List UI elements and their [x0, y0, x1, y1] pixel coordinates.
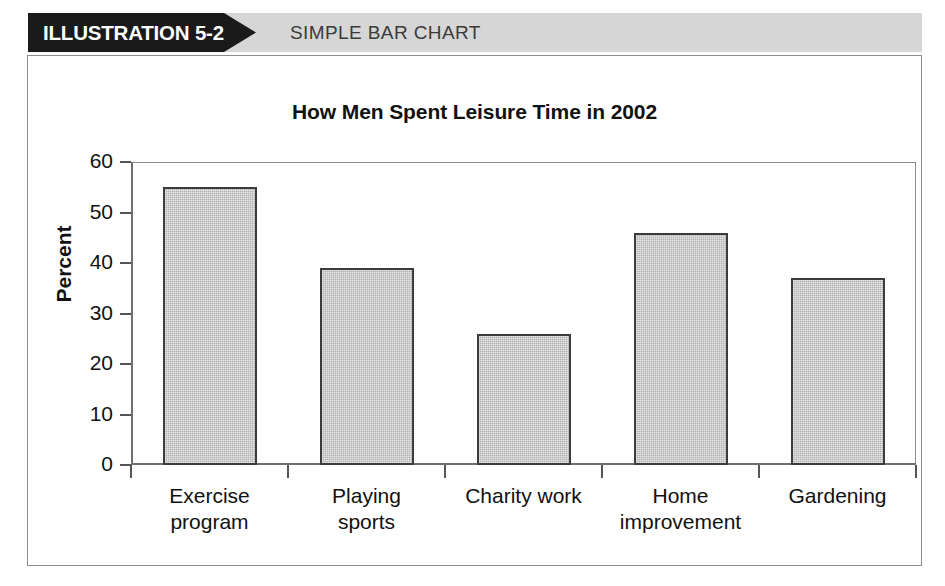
- y-axis-tick: 50: [120, 212, 131, 214]
- y-axis-tick: 30: [120, 313, 131, 315]
- plot-area: 0102030405060 Exercise programPlaying sp…: [131, 162, 916, 465]
- x-axis-tick: [287, 465, 289, 478]
- y-axis-tick-label: 20: [90, 351, 113, 375]
- y-axis-line: [131, 162, 133, 465]
- bar: [320, 268, 414, 465]
- y-axis-tick-label: 0: [101, 452, 113, 476]
- y-axis-tick-label: 50: [90, 200, 113, 224]
- x-axis-tick: [915, 465, 917, 478]
- x-axis-category-label: Charity work: [465, 483, 582, 509]
- x-axis-category-label: Exercise program: [169, 483, 250, 535]
- bar: [163, 187, 257, 465]
- plot-right-border: [915, 162, 916, 465]
- chart-title: How Men Spent Leisure Time in 2002: [28, 100, 921, 124]
- x-axis-tick: [601, 465, 603, 478]
- y-axis-tick: 40: [120, 262, 131, 264]
- y-axis-tick-label: 60: [90, 149, 113, 173]
- figure-frame: How Men Spent Leisure Time in 2002 Perce…: [27, 55, 922, 566]
- x-axis-tick: [758, 465, 760, 478]
- y-axis-tick-label: 30: [90, 301, 113, 325]
- y-axis-tick-label: 10: [90, 402, 113, 426]
- y-axis-tick: 20: [120, 363, 131, 365]
- x-axis-category-label: Home improvement: [620, 483, 741, 535]
- y-axis-tick-label: 40: [90, 250, 113, 274]
- figure-type-label: SIMPLE BAR CHART: [290, 13, 481, 52]
- x-axis-category-label: Gardening: [788, 483, 886, 509]
- y-axis-label: Percent: [52, 184, 76, 344]
- y-axis-tick: 10: [120, 414, 131, 416]
- plot-top-border: [131, 162, 916, 163]
- illustration-header-banner: ILLUSTRATION 5-2 SIMPLE BAR CHART: [28, 13, 922, 52]
- x-axis-tick: [130, 465, 132, 478]
- bar: [791, 278, 885, 465]
- y-axis-tick: 60: [120, 161, 131, 163]
- bar: [477, 334, 571, 465]
- bar: [634, 233, 728, 465]
- illustration-number-label: ILLUSTRATION 5-2: [43, 13, 224, 52]
- x-axis-category-label: Playing sports: [332, 483, 401, 535]
- x-axis-tick: [444, 465, 446, 478]
